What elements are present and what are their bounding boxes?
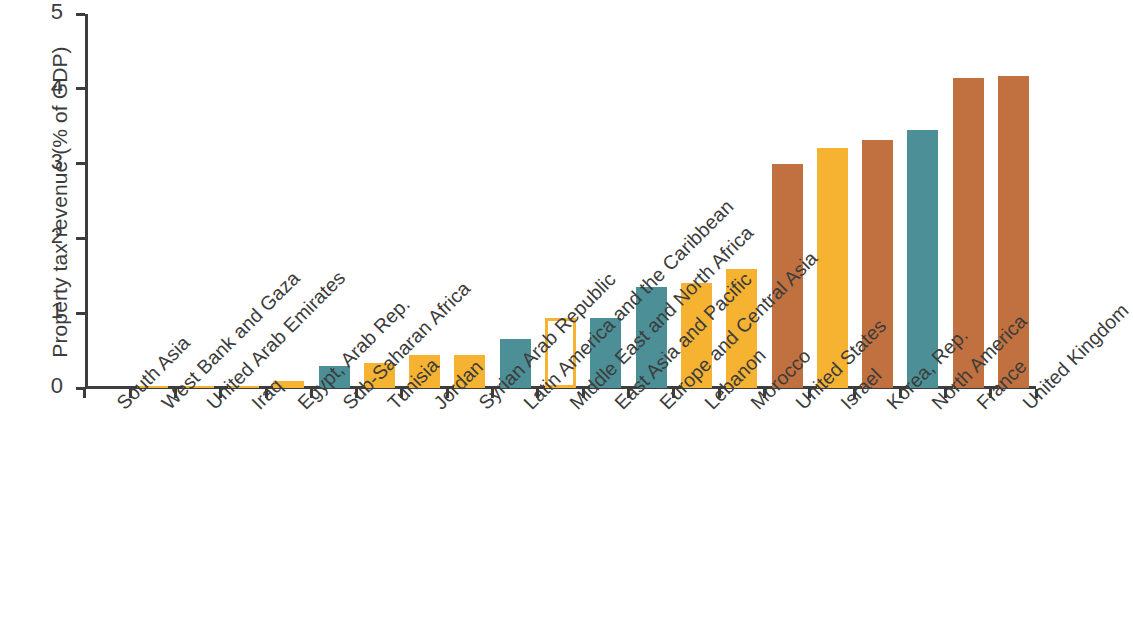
y-tick-mark xyxy=(76,87,85,90)
y-tick-label: 0 xyxy=(23,375,63,397)
y-tick-label: 2 xyxy=(23,225,63,247)
y-tick-label: 4 xyxy=(23,76,63,98)
y-tick-label: 5 xyxy=(23,1,63,23)
y-tick-mark xyxy=(76,13,85,16)
y-tick-label: 1 xyxy=(23,300,63,322)
y-tick-mark xyxy=(76,312,85,315)
y-tick-mark xyxy=(76,162,85,165)
y-axis-title: Property tax revenue (% of GDP) xyxy=(48,2,72,402)
y-tick-label: 3 xyxy=(23,151,63,173)
x-tick-mark xyxy=(83,389,86,398)
y-tick-mark xyxy=(76,237,85,240)
